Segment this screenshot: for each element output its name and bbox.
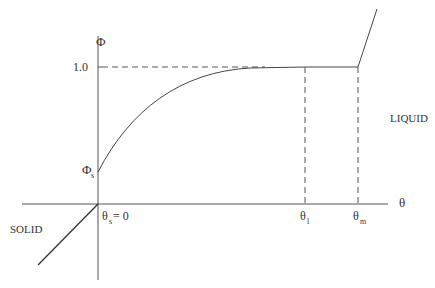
theta-s-label: θ bbox=[102, 209, 108, 223]
solid-line bbox=[38, 204, 98, 265]
theta-s-subscript: s bbox=[109, 217, 112, 226]
y-axis-label: Φ bbox=[96, 34, 106, 49]
phi-s-subscript: s bbox=[91, 171, 94, 180]
mushy-zone-curve bbox=[98, 67, 305, 172]
y-tick-label: 1.0 bbox=[73, 60, 88, 74]
theta-l-subscript: l bbox=[307, 217, 310, 226]
region-liquid-label: LIQUID bbox=[390, 112, 428, 124]
theta-s-equals: = 0 bbox=[113, 209, 129, 223]
phase-diagram: Φ 1.0 Φ s θ θ s = 0 θ l θ m LIQUID SOLID bbox=[0, 0, 435, 288]
x-axis-label: θ bbox=[399, 195, 405, 210]
region-solid-label: SOLID bbox=[10, 223, 42, 235]
theta-m-subscript: m bbox=[360, 217, 367, 226]
liquid-line bbox=[358, 9, 377, 67]
theta-m-label: θ bbox=[353, 209, 359, 223]
theta-l-label: θ bbox=[300, 209, 306, 223]
